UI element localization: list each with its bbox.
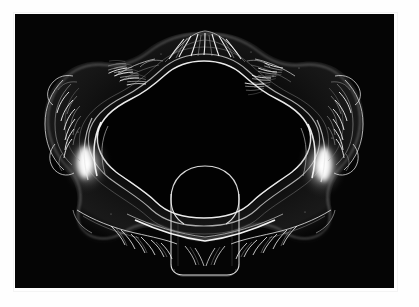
glass-dish-illustration xyxy=(15,14,394,288)
page-canvas xyxy=(0,0,419,307)
photograph xyxy=(15,14,394,288)
